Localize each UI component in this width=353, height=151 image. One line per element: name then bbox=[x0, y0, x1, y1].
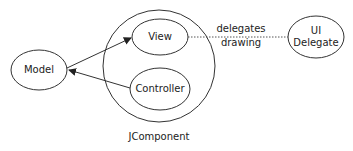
controller-node: Controller bbox=[130, 68, 190, 110]
jcomponent-label: JComponent bbox=[127, 131, 189, 142]
model-node: Model bbox=[11, 50, 67, 90]
delegates-label-line2: drawing bbox=[221, 37, 261, 48]
ui-delegate-label-line1: UI bbox=[311, 25, 321, 36]
ui-delegate-node: UI Delegate bbox=[288, 16, 344, 58]
controller-to-model-arrow bbox=[69, 70, 130, 88]
model-to-view-arrow bbox=[67, 38, 131, 68]
view-node: View bbox=[132, 19, 188, 55]
controller-label: Controller bbox=[135, 83, 185, 94]
diagram-canvas: JComponent View Controller Model UI Dele… bbox=[0, 0, 353, 151]
mvc-diagram: JComponent View Controller Model UI Dele… bbox=[0, 0, 353, 151]
model-label: Model bbox=[24, 64, 54, 75]
ui-delegate-label-line2: Delegate bbox=[293, 37, 338, 48]
delegates-label-line1: delegates bbox=[216, 23, 265, 34]
view-label: View bbox=[148, 31, 172, 42]
